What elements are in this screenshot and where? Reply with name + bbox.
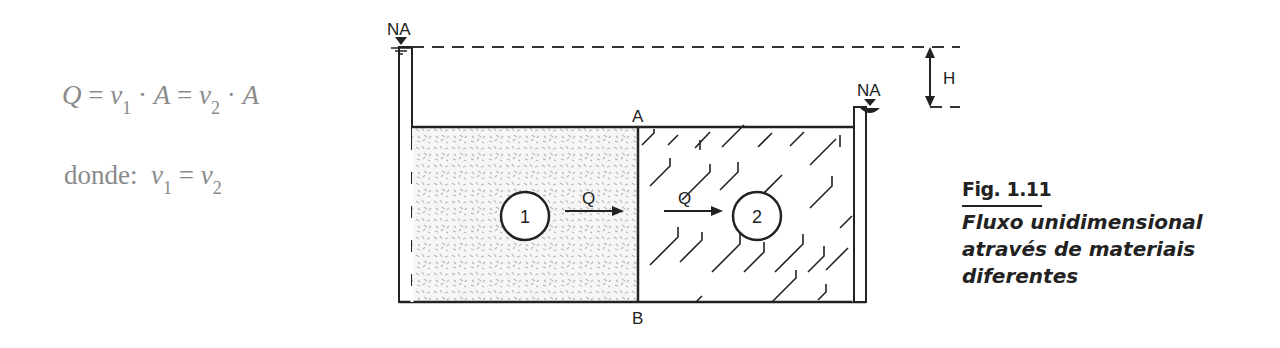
na-left-label: NA bbox=[387, 20, 411, 39]
caption-divider bbox=[962, 205, 1042, 207]
arrow-down-icon bbox=[925, 96, 935, 107]
head-label: H bbox=[943, 69, 955, 88]
water-level-left-icon bbox=[395, 37, 407, 45]
caption-line-1: Fluxo unidimensional bbox=[962, 209, 1262, 236]
point-a-label: A bbox=[632, 107, 644, 126]
permeameter-diagram: H NA A B NA 1 2 Q Q bbox=[0, 0, 1280, 348]
material-1-label: 1 bbox=[520, 207, 530, 227]
water-level-right-icon bbox=[864, 99, 876, 106]
flow-q-label-1: Q bbox=[582, 189, 595, 208]
material-2-label: 2 bbox=[752, 207, 762, 227]
flow-q-label-2: Q bbox=[678, 189, 691, 208]
caption-line-2: através de materiais bbox=[962, 236, 1262, 263]
figure-caption: Fluxo unidimensional através de materiai… bbox=[962, 209, 1262, 290]
figure-number: Fig. 1.11 bbox=[962, 178, 1051, 200]
arrow-up-icon bbox=[925, 47, 935, 58]
caption-line-3: diferentes bbox=[962, 263, 1262, 290]
na-right-label: NA bbox=[857, 81, 881, 100]
point-b-label: B bbox=[632, 309, 643, 328]
